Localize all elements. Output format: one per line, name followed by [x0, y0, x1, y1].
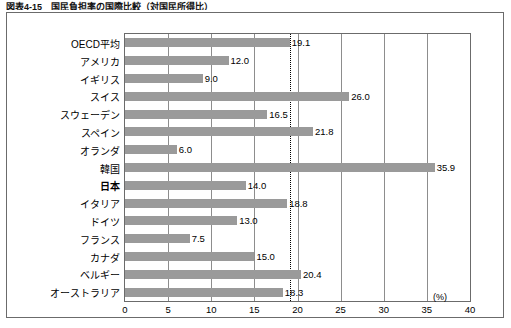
figure-caption: 図表4-15 国民負担率の国際比較（対国民所得比）	[6, 0, 213, 10]
category-label: 日本	[10, 178, 120, 193]
category-label: ベルギー	[10, 267, 120, 282]
category-label: フランス	[10, 232, 120, 247]
category-label: OECD平均	[10, 36, 120, 51]
category-labels: OECD平均アメリカイギリススイススウェーデンスペインオランダ韓国日本イタリアド…	[7, 13, 503, 317]
x-tick-label: 15	[242, 304, 266, 315]
category-label: アメリカ	[10, 54, 120, 69]
category-label: スイス	[10, 89, 120, 104]
x-axis-unit-label: (%)	[433, 292, 447, 302]
x-tick-label: 25	[329, 304, 353, 315]
category-label: 韓国	[10, 161, 120, 176]
chart-figure: 図表4-15 国民負担率の国際比較（対国民所得比） 19.112.09.026.…	[0, 0, 511, 328]
category-label: スペイン	[10, 125, 120, 140]
x-tick-label: 0	[113, 304, 137, 315]
category-label: オランダ	[10, 143, 120, 158]
category-label: イタリア	[10, 196, 120, 211]
x-tick-label: 20	[286, 304, 310, 315]
x-tick-label: 10	[199, 304, 223, 315]
category-label: ドイツ	[10, 214, 120, 229]
x-tick-label: 30	[372, 304, 396, 315]
x-tick-label: 35	[415, 304, 439, 315]
category-label: スウェーデン	[10, 107, 120, 122]
x-axis-tick-labels: 0510152025303540	[124, 304, 471, 318]
x-tick-label: 5	[156, 304, 180, 315]
x-tick-label: 40	[458, 304, 482, 315]
category-label: カナダ	[10, 250, 120, 265]
category-label: オーストラリア	[10, 285, 120, 300]
category-label: イギリス	[10, 72, 120, 87]
chart-frame: 19.112.09.026.016.521.86.035.914.018.813…	[6, 12, 504, 318]
